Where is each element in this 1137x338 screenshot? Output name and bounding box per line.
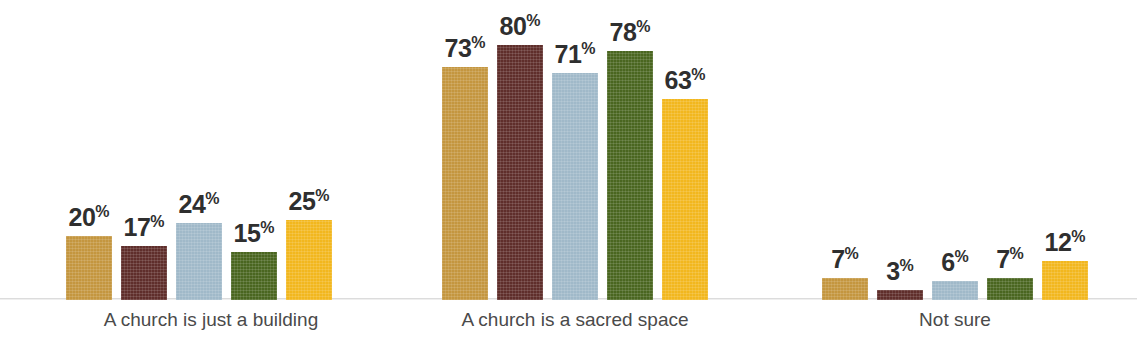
bar-item[interactable]: 12% [1042, 261, 1088, 300]
bar-value-label: 17% [123, 214, 164, 240]
category-label: Not sure [919, 310, 991, 329]
bar-rect[interactable] [822, 278, 868, 300]
bar-rect[interactable] [231, 252, 277, 300]
percent-sign: % [95, 203, 109, 220]
bar-value-number: 63 [664, 66, 691, 94]
bar-value-number: 71 [554, 40, 581, 68]
percent-sign: % [1010, 245, 1024, 262]
bar-item[interactable]: 63% [662, 99, 708, 300]
bar-value-number: 15 [233, 219, 260, 247]
percent-sign: % [845, 245, 859, 262]
bar-value-label: 24% [178, 191, 219, 217]
bar-value-number: 73 [444, 34, 471, 62]
bar-rect[interactable] [176, 223, 222, 300]
bar-item[interactable]: 73% [442, 67, 488, 300]
bar-value-number: 7 [996, 245, 1009, 273]
bar-value-label: 80% [499, 13, 540, 39]
bar-value-label: 20% [68, 204, 109, 230]
bar-item[interactable]: 78% [607, 51, 653, 300]
bar-item[interactable]: 6% [932, 281, 978, 300]
bar-value-number: 17 [123, 213, 150, 241]
bar-value-number: 7 [831, 245, 844, 273]
percent-sign: % [581, 40, 595, 57]
percent-sign: % [150, 213, 164, 230]
bar-rect[interactable] [1042, 261, 1088, 300]
bar-value-label: 6% [941, 249, 969, 275]
bar-rect[interactable] [877, 290, 923, 300]
percent-sign: % [955, 248, 969, 265]
category-label: A church is a sacred space [461, 310, 688, 329]
bar-item[interactable]: 71% [552, 73, 598, 300]
percent-sign: % [636, 18, 650, 35]
bar-value-label: 78% [609, 19, 650, 45]
bar-group-not-sure: 7% 3% 6% 7% 12% [822, 0, 1095, 300]
bar-value-number: 24 [178, 190, 205, 218]
bar-value-number: 78 [609, 18, 636, 46]
bar-item[interactable]: 80% [497, 45, 543, 300]
bar-value-label: 71% [554, 41, 595, 67]
bar-item[interactable]: 24% [176, 223, 222, 300]
bar-rect[interactable] [932, 281, 978, 300]
bar-value-number: 20 [68, 203, 95, 231]
bar-value-label: 63% [664, 67, 705, 93]
percent-sign: % [315, 187, 329, 204]
bar-item[interactable]: 20% [66, 236, 112, 300]
bar-value-number: 25 [288, 187, 315, 215]
percent-sign: % [526, 12, 540, 29]
bar-item[interactable]: 3% [877, 290, 923, 300]
bar-rect[interactable] [987, 278, 1033, 300]
bar-item[interactable]: 17% [121, 246, 167, 300]
bar-rect[interactable] [121, 246, 167, 300]
bar-rect[interactable] [552, 73, 598, 300]
bar-rect[interactable] [286, 220, 332, 300]
percent-sign: % [1071, 228, 1085, 245]
percent-sign: % [471, 34, 485, 51]
bar-value-label: 73% [444, 35, 485, 61]
bar-item[interactable]: 7% [822, 278, 868, 300]
bar-value-number: 12 [1044, 228, 1071, 256]
category-label: A church is just a building [104, 310, 318, 329]
bar-value-label: 7% [996, 246, 1024, 272]
bar-rect[interactable] [66, 236, 112, 300]
bar-group-a-church-is-just-a-building: 20% 17% 24% 15% 25% [66, 0, 339, 300]
bar-value-number: 3 [886, 257, 899, 285]
bar-item[interactable]: 15% [231, 252, 277, 300]
bar-item[interactable]: 25% [286, 220, 332, 300]
percent-sign: % [900, 257, 914, 274]
bar-item[interactable]: 7% [987, 278, 1033, 300]
bar-rect[interactable] [607, 51, 653, 300]
bar-value-label: 25% [288, 188, 329, 214]
bar-value-label: 3% [886, 258, 914, 284]
percent-sign: % [205, 190, 219, 207]
bar-value-number: 6 [941, 248, 954, 276]
bar-chart: 20% 17% 24% 15% 25% 73% 80% 7 [0, 0, 1137, 338]
bar-rect[interactable] [662, 99, 708, 300]
bar-rect[interactable] [442, 67, 488, 300]
percent-sign: % [691, 66, 705, 83]
bar-value-label: 12% [1044, 229, 1085, 255]
bar-value-label: 15% [233, 220, 274, 246]
bar-group-a-church-is-a-sacred-space: 73% 80% 71% 78% 63% [442, 0, 715, 300]
percent-sign: % [260, 219, 274, 236]
bar-value-label: 7% [831, 246, 859, 272]
bar-rect[interactable] [497, 45, 543, 300]
bar-value-number: 80 [499, 12, 526, 40]
